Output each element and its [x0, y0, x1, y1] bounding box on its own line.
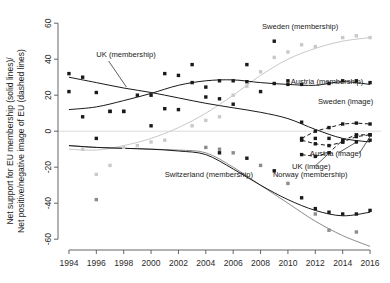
data-point [327, 126, 330, 129]
data-point [355, 121, 358, 124]
data-point [190, 124, 193, 127]
data-point [218, 97, 221, 100]
x-tick-label-3: 2000 [142, 258, 161, 268]
data-point [355, 212, 358, 215]
data-point [67, 90, 70, 93]
annotation-austria-membership: Austria (membership) [291, 77, 364, 86]
data-point [218, 148, 221, 151]
data-point [341, 212, 344, 215]
y-tick-label-2: 20 [43, 90, 53, 100]
data-point [218, 115, 221, 118]
data-point [245, 63, 248, 66]
data-point [341, 140, 344, 143]
y-tick-label-6: -60 [43, 233, 53, 246]
chart-background [0, 0, 390, 283]
data-point [218, 79, 221, 82]
data-point [149, 140, 152, 143]
data-point [122, 110, 125, 113]
data-point [368, 81, 371, 84]
data-point [355, 135, 358, 138]
data-point [286, 79, 289, 82]
data-point [218, 151, 221, 154]
chart-container: 1994199619982000200220042006200820102012… [0, 0, 390, 283]
line-scatter-chart: 1994199619982000200220042006200820102012… [0, 0, 390, 283]
y-tick-label-0: 60 [43, 18, 53, 28]
data-point [259, 90, 262, 93]
x-tick-label-10: 2014 [333, 258, 352, 268]
x-tick-label-6: 2006 [224, 258, 243, 268]
data-point [204, 85, 207, 88]
data-point [273, 82, 276, 85]
data-point [81, 115, 84, 118]
x-tick-label-2: 1998 [114, 258, 133, 268]
data-point [314, 130, 317, 133]
annotation-switzerland-membership: Switzerland (membership) [165, 170, 254, 179]
data-point [341, 122, 344, 125]
annotation-austria-image: Austria (image) [310, 149, 362, 158]
data-point [368, 122, 371, 125]
data-point [81, 148, 84, 151]
data-point [149, 94, 152, 97]
data-point [300, 43, 303, 46]
y-tick-label-3: 0 [43, 129, 53, 134]
data-point [300, 121, 303, 124]
data-point [231, 103, 234, 106]
data-point [122, 146, 125, 149]
data-point [190, 63, 193, 66]
data-point [204, 146, 207, 149]
x-tick-label-8: 2010 [278, 258, 297, 268]
y-tick-label-4: -20 [43, 161, 53, 174]
x-tick-label-7: 2008 [251, 258, 270, 268]
x-tick-label-4: 2002 [169, 258, 188, 268]
data-point [314, 212, 317, 215]
x-tick-label-0: 1994 [59, 258, 78, 268]
data-point [259, 70, 262, 73]
x-tick-label-1: 1996 [87, 258, 106, 268]
data-point [177, 108, 180, 111]
data-point [314, 207, 317, 210]
data-point [95, 198, 98, 201]
y-tick-label-1: 40 [43, 54, 53, 64]
annotation-sweden-membership: Sweden (membership) [262, 22, 339, 31]
data-point [327, 144, 330, 147]
data-point [95, 137, 98, 140]
x-tick-label-5: 2004 [196, 258, 215, 268]
x-tick-label-11: 2016 [361, 258, 380, 268]
data-point [286, 83, 289, 86]
y-axis-title-line-1: Net support for EU membership (solid lin… [5, 57, 15, 225]
data-point [231, 94, 234, 97]
data-point [327, 229, 330, 232]
data-point [314, 137, 317, 140]
data-point [149, 124, 152, 127]
data-point [368, 209, 371, 212]
x-tick-label-9: 2012 [306, 258, 325, 268]
data-point [67, 72, 70, 75]
annotation-sweden-image: Sweden (image) [318, 97, 374, 106]
data-point [355, 230, 358, 233]
data-point [136, 144, 139, 147]
data-point [245, 157, 248, 160]
data-point [327, 137, 330, 140]
data-point [190, 81, 193, 84]
data-point [300, 153, 303, 156]
data-point [204, 95, 207, 98]
data-point [108, 164, 111, 167]
data-point [204, 119, 207, 122]
annotation-uk-membership: UK (membership) [96, 50, 156, 59]
data-point [108, 110, 111, 113]
data-point [273, 56, 276, 59]
data-point [95, 173, 98, 176]
data-point [231, 151, 234, 154]
data-point [177, 74, 180, 77]
data-point [327, 211, 330, 214]
data-point [355, 34, 358, 37]
data-point [163, 107, 166, 110]
data-point [314, 142, 317, 145]
data-point [368, 133, 371, 136]
data-point [273, 40, 276, 43]
data-point [286, 50, 289, 53]
data-point [81, 76, 84, 79]
data-point [259, 164, 262, 167]
y-axis-title: Net support for EU membership (solid lin… [5, 49, 26, 233]
annotation-norway-membership: Norway (membership) [273, 170, 348, 179]
